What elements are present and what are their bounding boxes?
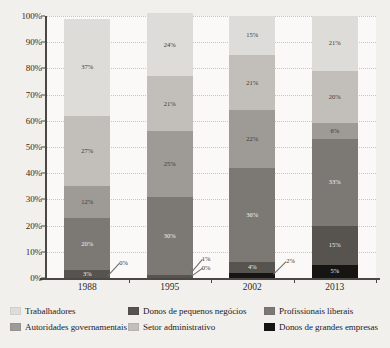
y-axis-tick — [41, 278, 45, 279]
bar-segment-value-label: 22% — [246, 136, 258, 143]
y-axis-tick — [41, 94, 45, 95]
bar-segment[interactable]: 36% — [229, 168, 275, 262]
legend-color-swatch — [128, 307, 139, 315]
y-axis-labels: 0%10%20%30%40%50%60%70%80%90%100% — [0, 0, 42, 348]
legend-color-swatch — [10, 323, 21, 331]
y-axis-tick-label: 60% — [2, 116, 42, 126]
bar-segment[interactable]: 5% — [312, 265, 358, 278]
y-axis-tick-label: 80% — [2, 63, 42, 73]
bar-segment[interactable]: 37% — [64, 19, 110, 116]
bar-segment-value-label: 21% — [164, 101, 176, 108]
legend-item[interactable]: Donos de pequenos negócios — [128, 306, 264, 316]
y-axis-tick — [41, 147, 45, 148]
y-axis-tick — [41, 16, 45, 17]
legend-item[interactable]: Setor administrativo — [128, 322, 264, 332]
bar-segment-value-label: 3% — [83, 271, 92, 278]
legend-label: Profissionais liberais — [279, 306, 353, 316]
legend-label: Donos de pequenos negócios — [143, 306, 246, 316]
y-axis-tick-label: 70% — [2, 90, 42, 100]
bar-segment[interactable] — [229, 273, 275, 278]
bar-group[interactable]: 30%25%21%24% — [147, 16, 193, 278]
value-callout-label: 0% — [202, 265, 211, 272]
bar-segment[interactable]: 15% — [229, 16, 275, 55]
bar-group[interactable]: 5%15%33%6%20%21% — [312, 16, 358, 278]
bar-segment[interactable]: 6% — [312, 123, 358, 139]
y-axis-tick-label: 30% — [2, 194, 42, 204]
legend-label: Setor administrativo — [143, 322, 215, 332]
bar-stack[interactable]: 3%20%12%27%37% — [64, 16, 110, 278]
bar-segment[interactable]: 20% — [64, 218, 110, 270]
bar-segment[interactable]: 15% — [312, 226, 358, 265]
chart-legend: TrabalhadoresAutoridades governamentaisD… — [10, 303, 384, 335]
bar-segment[interactable]: 30% — [147, 197, 193, 276]
y-axis-tick — [41, 225, 45, 226]
bar-segment[interactable]: 25% — [147, 131, 193, 197]
y-axis-tick — [41, 42, 45, 43]
bar-segment[interactable]: 20% — [312, 71, 358, 123]
bar-segment-value-label: 15% — [246, 32, 258, 39]
bar-segment[interactable]: 24% — [147, 13, 193, 76]
value-callout-label: 0% — [119, 260, 128, 267]
x-axis-line — [40, 278, 380, 280]
legend-color-swatch — [264, 307, 275, 315]
bar-segment-value-label: 20% — [81, 241, 93, 248]
y-axis-tick-label: 90% — [2, 37, 42, 47]
legend-label: Trabalhadores — [25, 306, 76, 316]
bar-stack[interactable]: 5%15%33%6%20%21% — [312, 16, 358, 278]
bar-group[interactable]: 3%20%12%27%37% — [64, 16, 110, 278]
bar-segment-value-label: 30% — [164, 233, 176, 240]
bar-segment-value-label: 27% — [81, 148, 93, 155]
bar-segment[interactable] — [147, 275, 193, 278]
legend-label: Donos de grandes empresas — [279, 322, 378, 332]
bar-segment-value-label: 6% — [330, 128, 339, 135]
bar-segment[interactable]: 21% — [312, 16, 358, 71]
bar-segment[interactable]: 12% — [64, 186, 110, 217]
y-axis-tick-label: 0% — [2, 273, 42, 283]
bar-segment-value-label: 12% — [81, 199, 93, 206]
bar-segment[interactable]: 3% — [64, 270, 110, 278]
legend-item[interactable]: Profissionais liberais — [264, 306, 384, 316]
bar-segment-value-label: 21% — [329, 40, 341, 47]
bar-segment-value-label: 15% — [329, 242, 341, 249]
stacked-bar-chart: 0%10%20%30%40%50%60%70%80%90%100% 3%20%1… — [0, 0, 390, 348]
y-axis-tick-label: 100% — [2, 11, 42, 21]
y-axis-tick-label: 20% — [2, 221, 42, 231]
y-axis-tick — [41, 251, 45, 252]
bar-segment[interactable]: 27% — [64, 116, 110, 187]
legend-color-swatch — [128, 323, 139, 331]
bar-stack[interactable]: 4%36%22%21%15% — [229, 16, 275, 278]
bar-group[interactable]: 4%36%22%21%15% — [229, 16, 275, 278]
x-axis-tick — [376, 279, 377, 283]
bar-segment[interactable]: 33% — [312, 139, 358, 225]
bars-layer: 3%20%12%27%37%30%25%21%24%4%36%22%21%15%… — [46, 16, 376, 278]
y-axis-tick — [41, 120, 45, 121]
bar-segment[interactable]: 22% — [229, 110, 275, 168]
bar-segment-value-label: 37% — [81, 64, 93, 71]
bar-segment-value-label: 4% — [248, 264, 257, 271]
legend-item[interactable]: Autoridades governamentais — [10, 322, 128, 332]
y-axis-tick — [41, 68, 45, 69]
legend-item[interactable]: Donos de grandes empresas — [264, 322, 384, 332]
legend-color-swatch — [264, 323, 275, 331]
legend-color-swatch — [10, 307, 21, 315]
x-axis-tick — [294, 279, 295, 283]
y-axis-tick-label: 10% — [2, 247, 42, 257]
y-axis-tick — [41, 173, 45, 174]
bar-segment[interactable]: 21% — [147, 76, 193, 131]
bar-stack[interactable]: 30%25%21%24% — [147, 16, 193, 278]
bar-segment-value-label: 24% — [164, 42, 176, 49]
x-axis-tick-label: 1988 — [57, 282, 117, 292]
legend-label: Autoridades governamentais — [25, 322, 127, 332]
x-axis-tick-label: 2002 — [222, 282, 282, 292]
x-axis-tick — [211, 279, 212, 283]
bar-segment-value-label: 25% — [164, 161, 176, 168]
value-callout-label: 2% — [286, 258, 295, 265]
bar-segment-value-label: 21% — [246, 80, 258, 87]
bar-segment[interactable]: 21% — [229, 55, 275, 110]
x-axis-labels: 1988199520022013 — [46, 282, 376, 298]
x-axis-tick — [129, 279, 130, 283]
legend-item[interactable]: Trabalhadores — [10, 306, 128, 316]
y-axis-tick-label: 40% — [2, 168, 42, 178]
bar-segment[interactable]: 4% — [229, 262, 275, 272]
bar-segment-value-label: 20% — [329, 94, 341, 101]
